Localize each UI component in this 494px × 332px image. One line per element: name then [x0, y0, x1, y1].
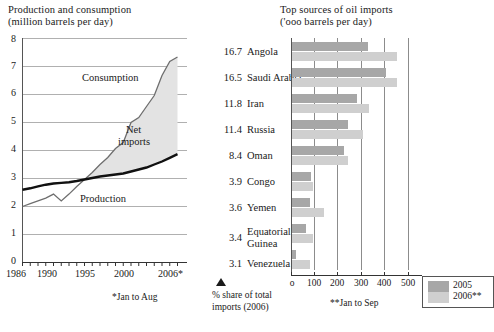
bar-eq-guinea-2005 [292, 224, 306, 233]
row-pct-yemen: 3.6 [212, 202, 242, 213]
legend: 2005 2006** [422, 276, 494, 308]
bar-tick-300 [361, 272, 362, 276]
left-ytick-5: 5 [2, 115, 16, 126]
bar-x-axis-line [291, 275, 422, 276]
bar-venezuela-2006 [292, 260, 310, 269]
left-ytick-7: 7 [2, 60, 16, 71]
legend-swatch-2005 [428, 281, 449, 292]
row-pct-eq-guinea: 3.4 [212, 232, 242, 243]
bar-russia-2005 [292, 120, 348, 129]
row-name-angola: Angola [247, 46, 278, 58]
row-pct-iran: 11.8 [212, 98, 242, 109]
right-chart-title-line2: ('ooo barrels per day) [280, 16, 372, 29]
bar-congo-2006 [292, 182, 313, 191]
left-ytick-4: 4 [2, 143, 16, 154]
bar-xtick-label-300: 300 [352, 278, 370, 288]
row-pct-venezuela: 3.1 [212, 258, 242, 269]
right-chart-title-line1: Top sources of oil imports [280, 4, 393, 17]
row-pct-oman: 8.4 [212, 150, 242, 161]
row-pct-saudi: 16.5 [212, 72, 242, 83]
right-chart-footnote: **Jan to Sep [330, 298, 379, 308]
bar-angola-2006 [292, 52, 397, 61]
legend-label-2006: 2006** [453, 291, 482, 301]
row-name-eq-guinea-line2: Guinea [247, 238, 277, 250]
bar-oman-2005 [292, 146, 344, 155]
right-chart-panel: Top sources of oil imports ('ooo barrels… [212, 0, 425, 332]
net-imports-label-line2: imports [118, 136, 150, 147]
row-name-iran: Iran [247, 98, 264, 110]
bar-eq-guinea-2006 [292, 234, 313, 243]
left-ytick-1: 1 [2, 227, 16, 238]
bar-russia-2006 [292, 130, 363, 139]
bar-oman-2006 [292, 156, 348, 165]
bar-xtick-label-500: 500 [399, 278, 417, 288]
left-xtick-2000: 2000 [114, 268, 134, 279]
row-name-venezuela: Venezuela [247, 258, 290, 270]
bar-yemen-2006 [292, 208, 324, 217]
share-caption-line2: imports (2006) [212, 302, 269, 312]
left-xtick-1986: 1986 [6, 268, 26, 279]
bar-iran-2005 [292, 94, 357, 103]
gridline-500 [408, 38, 409, 270]
bar-tick-0 [291, 272, 292, 276]
left-ytick-6: 6 [2, 87, 16, 98]
bar-congo-2005 [292, 172, 311, 181]
left-chart-panel: Production and consumption (million barr… [0, 0, 212, 332]
row-name-yemen: Yemen [247, 202, 276, 214]
legend-label-2005: 2005 [453, 280, 472, 290]
left-xtick-2006: 2006* [158, 268, 183, 279]
row-pct-angola: 16.7 [212, 46, 242, 57]
consumption-label: Consumption [82, 72, 139, 83]
bar-saudi-2005 [292, 68, 386, 77]
row-pct-russia: 11.4 [212, 124, 242, 135]
left-ytick-8: 8 [2, 33, 16, 44]
bar-tick-500 [408, 272, 409, 276]
left-chart-title-line2: (million barrels per day) [8, 16, 113, 29]
row-name-congo: Congo [247, 176, 275, 188]
left-xtick-1995: 1995 [75, 268, 95, 279]
left-ytick-2: 2 [2, 199, 16, 210]
net-imports-label-line1: Net [126, 124, 141, 135]
left-chart-footnote: *Jan to Aug [112, 292, 157, 302]
left-chart-title-line1: Production and consumption [8, 4, 131, 17]
bar-yemen-2005 [292, 198, 310, 207]
bar-xtick-label-0: o [287, 278, 297, 288]
row-name-eq-guinea: Equatorial [247, 226, 291, 238]
row-pct-congo: 3.9 [212, 176, 242, 187]
left-ytick-0: 0 [2, 255, 16, 266]
left-xtick-1990: 1990 [37, 268, 57, 279]
bar-xtick-label-100: 100 [305, 278, 323, 288]
bar-iran-2006 [292, 104, 369, 113]
row-name-oman: Oman [247, 150, 273, 162]
bar-tick-200 [337, 272, 338, 276]
bar-angola-2005 [292, 42, 368, 51]
legend-swatch-2006 [428, 292, 449, 303]
bar-tick-100 [314, 272, 315, 276]
bar-saudi-2006 [292, 78, 397, 87]
bar-venezuela-2005 [292, 250, 296, 259]
share-caption-line1: % share of total [212, 290, 272, 300]
bars-plot-area: 2005 2006** [291, 38, 422, 275]
share-arrow-icon [216, 278, 226, 286]
bar-xtick-label-200: 200 [328, 278, 346, 288]
production-label: Production [80, 193, 126, 204]
bar-xtick-label-400: 400 [375, 278, 393, 288]
row-name-russia: Russia [247, 124, 275, 136]
bar-tick-400 [384, 272, 385, 276]
left-ytick-3: 3 [2, 171, 16, 182]
x-tickmarks [23, 262, 178, 266]
